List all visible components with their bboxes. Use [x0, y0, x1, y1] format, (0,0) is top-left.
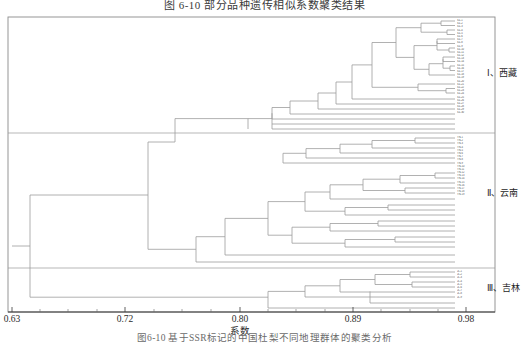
x-tick-3: 0.89 — [345, 314, 362, 324]
x-tick-4: 0.98 — [458, 314, 475, 324]
x-tick-0: 0.63 — [4, 314, 21, 324]
group-label-2: Ⅱ、云南 — [487, 186, 518, 199]
leaf-label: YN-19 — [457, 193, 483, 196]
dendrogram-branches — [12, 21, 455, 308]
leaf-labels-group-3: JL-1JL-2JL-3JL-4JL-5JL-6JL-7JL-8JL-9 — [457, 270, 483, 299]
leaf-label: XZ-30 — [457, 111, 483, 114]
x-tick-1: 0.72 — [117, 314, 134, 324]
group-label-1: Ⅰ、西藏 — [487, 66, 517, 79]
group-label-3: Ⅲ、吉林 — [487, 281, 520, 294]
figure-caption: 图6-10 基于SSR标记的中国杜梨不同地理群体的聚类分析 — [0, 330, 529, 344]
figure-title: 图 6-10 部分品种遗传相似系数聚类结果 — [0, 0, 529, 12]
leaf-label: JL-9 — [457, 296, 483, 299]
leaf-labels-group-1: XZ-1XZ-2XZ-3XZ-4XZ-5XZ-6XZ-7XZ-8XZ-9XZ-1… — [457, 19, 483, 115]
leaf-labels-group-2: YN-1YN-2YN-3YN-4YN-5YN-6YN-7YN-8YN-9YN-1… — [457, 136, 483, 197]
